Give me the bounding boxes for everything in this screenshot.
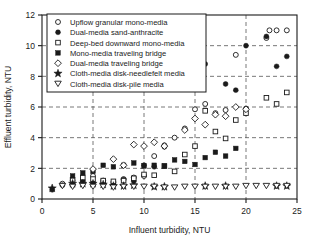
legend-item-label: Dual-media traveling bridge — [70, 59, 163, 68]
data-point-filled-square — [111, 165, 116, 170]
data-point-open-circle — [152, 154, 157, 159]
data-point-open-circle — [223, 108, 228, 113]
scatter-plot: 0510152025024681012Influent turbidity, N… — [0, 0, 323, 244]
data-point-filled-square — [152, 163, 157, 168]
legend-item: Dual-media traveling bridge — [55, 59, 163, 68]
data-point-filled-square — [172, 158, 177, 163]
data-point-filled-square — [56, 51, 61, 56]
x-axis-title: Influent turbidity, NTU — [129, 225, 211, 235]
data-point-filled-circle — [233, 88, 238, 93]
legend-item-label: Cloth-media disk-pile media — [70, 80, 164, 89]
data-point-open-square — [142, 172, 147, 177]
y-axis-title: Effluent turbidity, NTU — [3, 66, 13, 148]
legend-item: Cloth-media disk-pile media — [55, 80, 165, 89]
data-point-open-circle — [172, 135, 177, 140]
data-point-open-triangle-down — [253, 183, 260, 188]
data-point-open-square — [223, 136, 228, 141]
series-2 — [70, 90, 289, 184]
data-point-open-square — [152, 173, 157, 178]
data-point-open-circle — [203, 101, 208, 106]
legend: Upflow granular mono-mediaDual-media san… — [47, 14, 206, 92]
data-point-filled-circle — [274, 64, 279, 69]
data-point-filled-square — [203, 155, 208, 160]
data-point-open-diamond — [151, 139, 158, 146]
legend-item-label: Deep-bed downward mono-media — [70, 39, 185, 48]
x-tick-label: 15 — [190, 206, 200, 216]
data-point-open-square — [132, 176, 137, 181]
data-point-filled-square — [193, 162, 198, 167]
y-tick-label: 8 — [30, 72, 35, 82]
data-point-filled-square — [70, 174, 75, 179]
data-point-open-square — [264, 96, 269, 101]
data-point-open-square — [285, 90, 290, 95]
y-tick-label: 10 — [26, 41, 36, 51]
data-point-open-triangle-down — [212, 184, 219, 189]
data-point-open-diamond — [222, 113, 229, 120]
data-point-open-diamond — [130, 141, 137, 148]
data-point-filled-circle — [56, 30, 61, 35]
data-point-open-triangle-down — [192, 184, 199, 189]
data-point-filled-square — [132, 161, 137, 166]
y-tick-label: 4 — [30, 133, 35, 143]
data-point-filled-circle — [284, 54, 289, 59]
series-6 — [59, 183, 290, 190]
data-point-open-square — [193, 144, 198, 149]
data-point-filled-square — [183, 159, 188, 164]
x-tick-label: 10 — [139, 206, 149, 216]
data-point-open-triangle-down — [141, 184, 148, 189]
legend-item-label: Upflow granular mono-media — [70, 18, 168, 27]
y-tick-label: 6 — [30, 102, 35, 112]
legend-item: Cloth-media disk-needlefelt media — [54, 69, 186, 78]
data-point-filled-circle — [223, 82, 228, 87]
data-point-filled-square — [81, 171, 86, 176]
data-point-open-square — [274, 102, 279, 107]
data-point-filled-circle — [244, 43, 249, 48]
data-point-open-triangle-down — [233, 184, 240, 189]
data-point-open-square — [203, 109, 208, 114]
data-point-open-diamond — [232, 104, 239, 111]
data-point-open-square — [183, 152, 188, 157]
data-point-filled-circle — [264, 34, 269, 39]
data-point-open-triangle-down — [171, 185, 178, 190]
data-point-filled-square — [162, 164, 167, 169]
legend-item: Dual-media sand-anthracite — [56, 28, 164, 37]
data-point-filled-square — [234, 146, 239, 151]
data-point-open-circle — [284, 28, 289, 33]
data-point-open-circle — [193, 107, 198, 112]
legend-item-label: Mono-media traveling bridge — [70, 49, 166, 58]
data-point-open-diamond — [192, 115, 199, 122]
data-point-open-square — [213, 129, 218, 134]
data-point-open-triangle-down — [182, 184, 189, 189]
legend-item-label: Dual-media sand-anthracite — [70, 28, 163, 37]
legend-item-label: Cloth-media disk-needlefelt media — [70, 69, 186, 78]
data-point-open-triangle-down — [263, 183, 270, 188]
y-tick-label: 2 — [30, 164, 35, 174]
data-point-open-triangle-down — [243, 183, 250, 188]
legend-item: Deep-bed downward mono-media — [56, 39, 185, 48]
x-tick-label: 0 — [40, 206, 45, 216]
data-point-open-square — [234, 118, 239, 123]
chart-figure: 0510152025024681012Influent turbidity, N… — [0, 0, 323, 244]
data-point-filled-square — [101, 163, 106, 168]
y-tick-label: 0 — [30, 194, 35, 204]
data-point-filled-square — [142, 164, 147, 169]
legend-item: Upflow granular mono-media — [56, 18, 169, 27]
x-tick-label: 20 — [241, 206, 251, 216]
data-point-open-square — [172, 169, 177, 174]
data-point-open-circle — [267, 28, 272, 33]
data-point-open-square — [56, 40, 61, 45]
legend-item: Mono-media traveling bridge — [56, 49, 167, 58]
data-point-open-circle — [274, 28, 279, 33]
data-point-open-circle — [56, 20, 61, 25]
x-tick-label: 5 — [91, 206, 96, 216]
x-tick-label: 25 — [292, 206, 302, 216]
y-tick-label: 12 — [26, 10, 36, 20]
data-point-filled-square — [213, 150, 218, 155]
data-point-open-circle — [233, 52, 238, 57]
data-point-open-diamond — [141, 143, 148, 150]
data-point-open-diamond — [202, 121, 209, 128]
data-point-filled-square — [223, 154, 228, 159]
data-point-open-diamond — [110, 156, 117, 163]
